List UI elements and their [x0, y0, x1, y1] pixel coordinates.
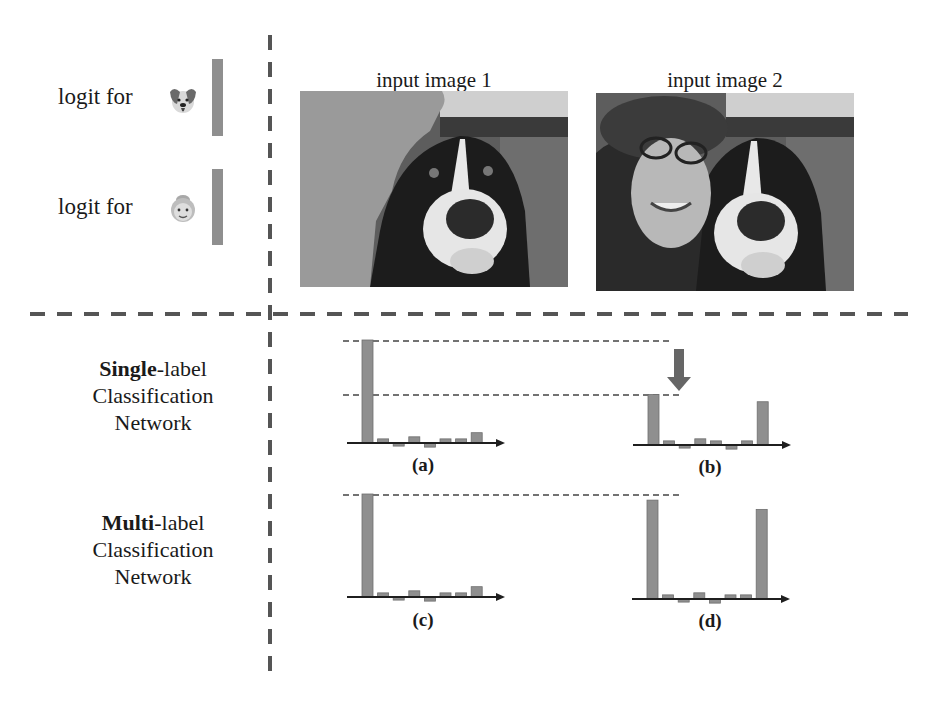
row-label-line3: Network [53, 563, 253, 590]
bar [647, 500, 658, 599]
input-image-2 [596, 93, 854, 291]
row-label-rest: -label [154, 510, 204, 535]
bar [757, 402, 768, 445]
caption-d: (d) [690, 610, 730, 632]
input-image-1-title: input image 1 [300, 68, 568, 93]
decrease-arrow-icon [667, 349, 691, 391]
input-image-2-title: input image 2 [596, 68, 854, 93]
caption-b: (b) [690, 456, 730, 478]
bar [362, 340, 373, 443]
row-label-bold: Single [99, 356, 156, 381]
bar [362, 494, 373, 597]
bar [648, 395, 659, 445]
logit-label-text: logit for [58, 84, 133, 109]
caption-c: (c) [403, 609, 443, 631]
bar [471, 433, 482, 443]
old-woman-face-icon [166, 191, 200, 225]
bar [471, 587, 482, 597]
bar-chart-c [347, 494, 505, 601]
row-label-line2: Classification [53, 536, 253, 563]
row-label-line2: Classification [53, 382, 253, 409]
dog-face-icon [166, 84, 200, 118]
row-label-bold: Multi [102, 510, 155, 535]
axis-arrowhead-icon [782, 441, 791, 449]
bar-chart-a [347, 340, 505, 447]
bar [756, 509, 767, 599]
logit-bar-dog [212, 59, 223, 136]
logit-bar-person [212, 169, 223, 245]
axis-arrowhead-icon [496, 439, 505, 447]
row-label-line3: Network [53, 409, 253, 436]
caption-a: (a) [403, 454, 443, 476]
row-label-single: Single-label Classification Network [53, 355, 253, 436]
row-label-rest: -label [157, 356, 207, 381]
bar-chart-d [632, 500, 790, 603]
logit-label-person: logit for [58, 195, 133, 218]
input-image-1 [300, 91, 568, 287]
axis-arrowhead-icon [781, 595, 790, 603]
logit-label-text: logit for [58, 194, 133, 219]
row-label-multi: Multi-label Classification Network [53, 509, 253, 590]
axis-arrowhead-icon [496, 593, 505, 601]
bar-chart-b [633, 395, 791, 450]
logit-label-dog: logit for [58, 85, 133, 108]
